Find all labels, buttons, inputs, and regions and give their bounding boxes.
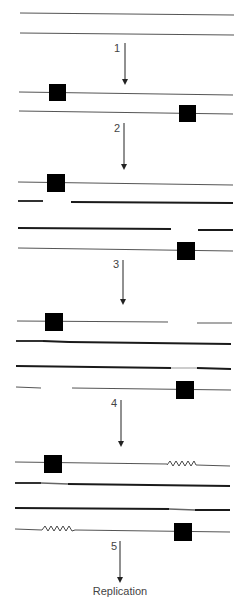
replication-label: Replication [93,585,147,597]
strand-3-segment [18,228,171,229]
step-label-2: 2 [114,122,120,134]
step-label-1: 1 [114,42,120,54]
strand-4-segment [72,388,231,390]
strand-bottom [20,33,234,35]
step-arrow-3: 3 [113,258,126,305]
strand-3-segment [15,508,169,509]
repair-patch-zigzag [42,526,75,531]
step-label-5: 5 [111,540,117,552]
strand-3-segment [16,366,171,368]
lesion-marker [47,174,65,192]
strand-2-gap [43,341,69,342]
strand-bottom [19,111,233,114]
step-arrow-2: 2 [114,122,127,170]
stage-filled-recombined [15,455,230,541]
strand-2-segment [68,484,230,486]
step-label-4: 4 [111,397,117,409]
arrow-head-icon [117,577,123,583]
strand-top [20,13,234,15]
lesion-marker [44,455,62,473]
lesion-marker [45,313,63,331]
lesion-marker [177,242,195,260]
strand-3-segment [197,368,231,369]
step-arrow-5: 5 [111,540,123,583]
step-arrow-4: 4 [111,397,124,447]
stage-intact-duplex [20,13,234,35]
lesion-marker [179,105,196,122]
repair-patch-zigzag [167,461,196,466]
strand-2-segment [69,342,231,344]
lesion-marker [49,84,66,101]
strand-3-patch [169,509,195,510]
lesion-marker [174,523,192,541]
strand-4-segment [75,530,230,532]
arrow-head-icon [120,299,126,305]
stage-incised-strands [18,174,233,260]
arrow-head-icon [118,441,124,447]
strand-4-segment [16,387,41,388]
strand-1-segment [15,462,167,464]
arrow-head-icon [122,79,128,85]
strand-1-segment [196,465,230,466]
lesion-marker [176,381,194,399]
strand-4 [18,248,233,251]
strand-4-segment [15,529,42,530]
strand-2-segment [71,202,233,203]
stage-gapped-strands [16,313,232,399]
arrow-head-icon [121,164,127,170]
repair-diagram: 1 2 3 [0,0,244,607]
step-label-3: 3 [113,258,119,270]
strand-2-patch [41,483,68,484]
stage-damaged-duplex [19,84,233,122]
step-arrow-1: 1 [114,42,128,85]
strand-1-segment [17,321,168,322]
